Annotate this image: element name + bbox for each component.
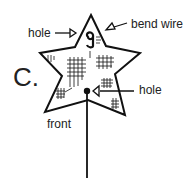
arrow-hole-center xyxy=(93,86,134,96)
step-label: C. xyxy=(13,64,39,90)
label-hole-center: hole xyxy=(139,84,162,96)
arrow-hole-top xyxy=(55,29,76,37)
arrow-bend-wire xyxy=(106,23,127,30)
label-front: front xyxy=(47,118,71,130)
label-hole-top: hole xyxy=(28,27,51,39)
star-outline xyxy=(40,15,140,115)
bent-wire-curl xyxy=(87,32,101,47)
label-bend-wire: bend wire xyxy=(131,18,183,30)
